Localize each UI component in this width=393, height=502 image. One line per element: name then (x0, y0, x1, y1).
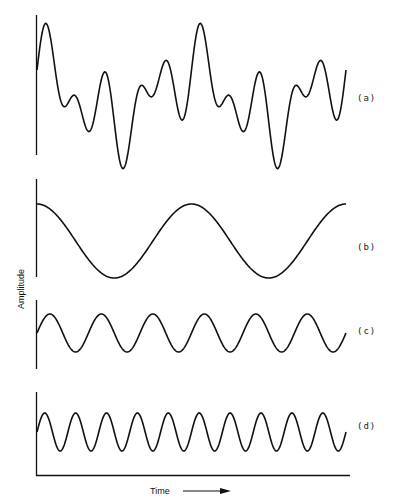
x-axis-label: Time (150, 486, 170, 496)
wave-d-fifth-harmonic (37, 413, 346, 451)
wave-a-composite (37, 23, 346, 168)
wave-b-fundamental (37, 204, 346, 278)
y-axis-label: Amplitude (16, 267, 26, 311)
waveform-figure (0, 0, 393, 502)
panel-label-b: (b) (357, 242, 376, 252)
time-arrow-icon (220, 488, 231, 494)
panel-label-d: (d) (357, 421, 376, 431)
panel-label-c: (c) (357, 326, 376, 336)
panel-label-a: (a) (357, 93, 376, 103)
wave-c-third-harmonic (37, 314, 346, 352)
